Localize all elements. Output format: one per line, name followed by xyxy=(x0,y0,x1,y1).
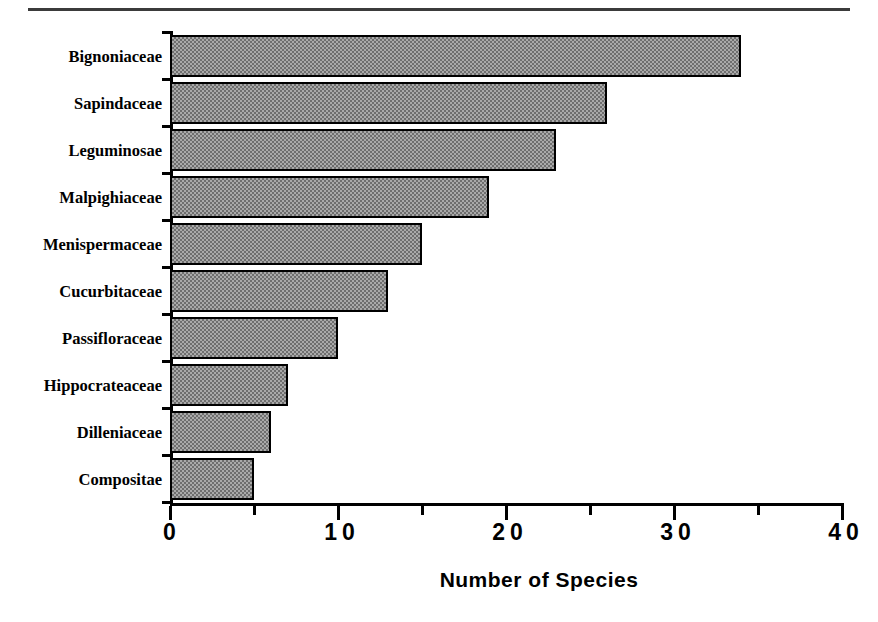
x-axis-title-text: Number of Species xyxy=(440,568,639,592)
y-axis-tick-label: Cucurbitaceae xyxy=(7,268,162,315)
x-axis-tick-label: 30 xyxy=(660,519,696,546)
plot-area xyxy=(170,33,842,503)
x-axis-minor-tick-mark xyxy=(253,506,256,515)
bar-row xyxy=(170,315,842,362)
y-axis-tick-mark xyxy=(162,501,171,504)
bar xyxy=(170,223,422,265)
bar xyxy=(170,82,607,124)
y-axis-tick-label: Dilleniaceae xyxy=(7,409,162,456)
x-axis-tick-label: 0 xyxy=(163,519,181,546)
bar-row xyxy=(170,33,842,80)
x-axis-tick-label: 40 xyxy=(828,519,864,546)
y-axis-tick-mark xyxy=(162,172,171,175)
y-axis-tick-mark xyxy=(162,454,171,457)
bar xyxy=(170,458,254,500)
bar xyxy=(170,270,388,312)
y-axis-tick-label: Sapindaceae xyxy=(7,80,162,127)
bar-row xyxy=(170,268,842,315)
y-axis-tick-mark xyxy=(162,266,171,269)
y-axis-tick-mark xyxy=(162,313,171,316)
y-axis-tick-label: Bignoniaceae xyxy=(7,33,162,80)
y-axis-tick-label: Passifloraceae xyxy=(7,315,162,362)
y-axis-tick-label: Menispermaceae xyxy=(7,221,162,268)
y-axis-tick-label: Leguminosae xyxy=(7,127,162,174)
bar xyxy=(170,364,288,406)
bar-row xyxy=(170,174,842,221)
y-axis-tick-mark xyxy=(162,407,171,410)
y-axis-tick-mark xyxy=(162,360,171,363)
x-axis-tick-mark xyxy=(841,506,844,520)
y-axis-category-labels: BignoniaceaeSapindaceaeLeguminosaeMalpig… xyxy=(0,33,162,503)
bar-row xyxy=(170,456,842,503)
y-axis-tick-label: Compositae xyxy=(7,456,162,503)
x-axis-tick-mark xyxy=(337,506,340,520)
x-axis-tick-mark xyxy=(505,506,508,520)
bar-row xyxy=(170,409,842,456)
bar-row xyxy=(170,221,842,268)
bar xyxy=(170,317,338,359)
y-axis-tick-mark xyxy=(162,78,171,81)
y-axis-tick-label: Hippocrateaceae xyxy=(7,362,162,409)
bar-row xyxy=(170,362,842,409)
y-axis-tick-mark xyxy=(162,31,171,34)
x-axis-tick-label: 20 xyxy=(492,519,528,546)
bar xyxy=(170,35,741,77)
bar xyxy=(170,129,556,171)
bar xyxy=(170,411,271,453)
x-axis-tick-label: 10 xyxy=(324,519,360,546)
x-axis-title: Number of Species xyxy=(0,568,878,592)
x-axis-tick-mark xyxy=(673,506,676,520)
x-axis-minor-tick-mark xyxy=(757,506,760,515)
bar-row xyxy=(170,127,842,174)
y-axis-tick-mark xyxy=(162,125,171,128)
x-axis-tick-mark xyxy=(169,506,172,520)
bar xyxy=(170,176,489,218)
x-axis-minor-tick-mark xyxy=(589,506,592,515)
bar-row xyxy=(170,80,842,127)
top-divider-rule xyxy=(28,8,850,11)
bar-chart-figure: BignoniaceaeSapindaceaeLeguminosaeMalpig… xyxy=(0,0,878,622)
y-axis-tick-mark xyxy=(162,219,171,222)
x-axis-minor-tick-mark xyxy=(421,506,424,515)
y-axis-tick-label: Malpighiaceae xyxy=(7,174,162,221)
